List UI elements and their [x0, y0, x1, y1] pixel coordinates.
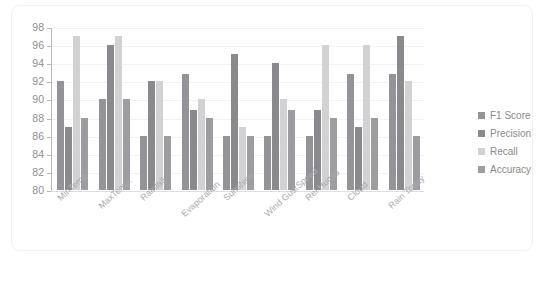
bar-group: [140, 28, 171, 190]
plot-area: [52, 28, 424, 190]
legend-color-swatch: [478, 130, 485, 137]
bar[interactable]: [280, 99, 287, 190]
bar[interactable]: [371, 118, 378, 190]
bar[interactable]: [223, 136, 230, 190]
legend-label: Recall: [490, 146, 518, 157]
legend-label: Precision: [490, 128, 531, 139]
bar[interactable]: [107, 45, 114, 190]
bar[interactable]: [322, 45, 329, 190]
bar[interactable]: [182, 74, 189, 190]
bar[interactable]: [140, 136, 147, 190]
chart-legend: F1 ScorePrecisionRecallAccuracy: [478, 106, 548, 178]
bar[interactable]: [156, 81, 163, 190]
bar[interactable]: [288, 110, 295, 190]
y-axis-tick-label: 94: [18, 58, 44, 69]
y-axis-tick-label: 80: [18, 185, 44, 196]
legend-item[interactable]: F1 Score: [478, 106, 548, 124]
y-axis-tick-label: 84: [18, 149, 44, 160]
y-axis-tick-label: 90: [18, 94, 44, 105]
legend-color-swatch: [478, 112, 485, 119]
y-axis-tick-label: 88: [18, 113, 44, 124]
legend-item[interactable]: Recall: [478, 142, 548, 160]
bar[interactable]: [405, 81, 412, 190]
bar-group: [57, 28, 88, 190]
bar[interactable]: [148, 81, 155, 190]
bar-group: [389, 28, 420, 190]
bar[interactable]: [57, 81, 64, 190]
bar[interactable]: [115, 36, 122, 190]
bar[interactable]: [314, 110, 321, 190]
y-axis-tick-label: 82: [18, 167, 44, 178]
legend-label: Accuracy: [490, 164, 531, 175]
bar-group: [306, 28, 337, 190]
bar-group: [182, 28, 213, 190]
bar[interactable]: [363, 45, 370, 190]
bar[interactable]: [198, 99, 205, 190]
legend-color-swatch: [478, 148, 485, 155]
bar[interactable]: [264, 136, 271, 190]
bar[interactable]: [231, 54, 238, 190]
bar[interactable]: [397, 36, 404, 190]
bar[interactable]: [389, 74, 396, 190]
bar[interactable]: [190, 110, 197, 190]
y-axis-tick-label: 92: [18, 76, 44, 87]
legend-label: F1 Score: [490, 110, 531, 121]
chart-card: 98969492908886848280 MinTempMaxTemp.Rain…: [11, 5, 533, 251]
legend-color-swatch: [478, 166, 485, 173]
bar[interactable]: [206, 118, 213, 190]
y-axis-tick-label: 86: [18, 131, 44, 142]
y-axis-labels: 98969492908886848280: [12, 6, 44, 226]
bar-group: [99, 28, 130, 190]
bar-group: [347, 28, 378, 190]
y-axis-tick-label: 98: [18, 22, 44, 33]
bar-group: [264, 28, 295, 190]
legend-item[interactable]: Precision: [478, 124, 548, 142]
bar[interactable]: [73, 36, 80, 190]
y-axis-tick-label: 96: [18, 40, 44, 51]
bar[interactable]: [347, 74, 354, 190]
legend-item[interactable]: Accuracy: [478, 160, 548, 178]
bar[interactable]: [99, 99, 106, 190]
bar[interactable]: [272, 63, 279, 190]
bar-group: [223, 28, 254, 190]
